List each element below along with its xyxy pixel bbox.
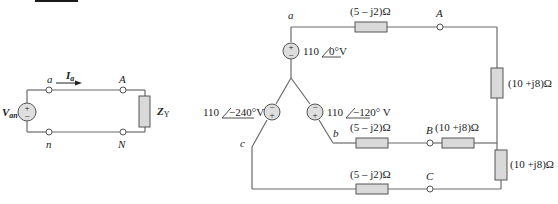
node-label-C3: C xyxy=(426,170,434,182)
node-label-N: N xyxy=(117,138,126,150)
voltage-source-van: + − xyxy=(18,103,36,121)
svg-text:110−240°V: 110−240°V xyxy=(203,106,264,118)
source-label-van: Van xyxy=(2,106,18,120)
svg-text:−: − xyxy=(24,111,29,121)
load-impedance-label-B: (10 +j8)Ω xyxy=(435,121,479,134)
line-impedance-b xyxy=(356,138,388,148)
load-impedance-A xyxy=(491,68,503,98)
line-impedance-a xyxy=(355,22,387,32)
node-label-B3: B xyxy=(426,124,433,136)
node-label-a: a xyxy=(47,73,53,85)
load-impedance-zy xyxy=(139,96,150,127)
node-label-n: n xyxy=(46,138,52,150)
three-phase-circuit: + − − + − + 1100°V 110−240°V 110−120° V xyxy=(203,5,554,194)
voltage-source-c: − + xyxy=(264,102,280,120)
svg-text:110−120° V: 110−120° V xyxy=(327,106,391,118)
load-impedance-label-C: (10 +j8)Ω xyxy=(510,158,554,171)
load-impedance-label-A: (10 +j8)Ω xyxy=(508,77,552,90)
node-B3 xyxy=(427,140,433,146)
circuit-diagrams: + − Van a n A N Ia ZY xyxy=(0,0,558,204)
node-A3 xyxy=(437,24,443,30)
node-label-a3: a xyxy=(288,9,294,21)
node-n xyxy=(46,129,52,135)
svg-text:+: + xyxy=(269,110,274,120)
svg-text:+: + xyxy=(312,110,317,120)
node-A xyxy=(120,87,126,93)
current-label-ia: Ia xyxy=(65,69,74,83)
line-impedance-label-a: (5 – j2)Ω xyxy=(350,5,391,18)
line-impedance-label-b: (5 – j2)Ω xyxy=(350,121,391,134)
voltage-source-a: + − xyxy=(283,42,299,60)
load-impedance-B xyxy=(442,138,474,148)
node-label-b3: b xyxy=(333,127,339,139)
node-N xyxy=(120,129,126,135)
node-label-c3: c xyxy=(240,137,245,149)
source-label-c: 110−240°V xyxy=(203,106,264,118)
node-label-A3: A xyxy=(435,7,443,19)
source-label-b: 110−120° V xyxy=(327,106,391,118)
line-impedance-label-c: (5 – j2)Ω xyxy=(350,168,391,181)
line-impedance-c xyxy=(356,184,388,194)
voltage-source-b: − + xyxy=(307,102,323,120)
load-label-zy: ZY xyxy=(156,105,170,119)
single-phase-circuit: + − Van a n A N Ia ZY xyxy=(2,69,170,150)
svg-text:−: − xyxy=(288,50,293,60)
node-C3 xyxy=(427,186,433,192)
load-impedance-C xyxy=(495,150,507,180)
node-a xyxy=(46,87,52,93)
svg-text:1100°V: 1100°V xyxy=(303,45,347,57)
node-label-A: A xyxy=(118,73,126,85)
source-label-a: 1100°V xyxy=(303,45,347,57)
current-arrow-icon xyxy=(56,81,82,86)
